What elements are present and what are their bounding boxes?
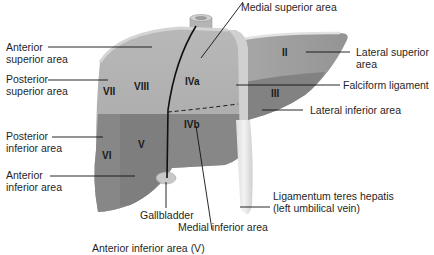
segment-ivb-label: IVb [184, 119, 200, 130]
ligamentum-teres [236, 120, 253, 214]
label-lateral-inferior-area: Lateral inferior area [310, 104, 401, 117]
segment-v-label: V [138, 139, 145, 150]
label-anterior-superior-area-line2: superior area [6, 53, 68, 66]
segment-iii-label: III [271, 88, 279, 99]
segment-vi-label: VI [102, 150, 111, 161]
label-medial-inferior-area: Medial inferior area [178, 221, 268, 234]
right-lobe [94, 28, 244, 212]
label-ligamentum-teres-line2: (left umbilical vein) [273, 202, 360, 215]
label-posterior-superior-area-line1: Posterior [6, 73, 48, 86]
segment-vii-label: VII [103, 86, 115, 97]
label-lateral-superior-area-line2: area [356, 58, 377, 71]
label-gallbladder: Gallbladder [140, 209, 194, 222]
segment-ii-label: II [282, 47, 288, 58]
label-posterior-superior-area-line2: superior area [6, 85, 68, 98]
label-posterior-inferior-area-line1: Posterior [6, 130, 48, 143]
segment-iva-label: IVa [185, 76, 199, 87]
label-anterior-inferior-area-line1: Anterior [6, 169, 43, 182]
label-anterior-superior-area-line1: Anterior [6, 41, 43, 54]
segment-viii-label: VIII [134, 81, 149, 92]
label-anterior-inferior-area-line2: inferior area [6, 181, 62, 194]
label-falciform-ligament: Falciform ligament [343, 79, 429, 92]
caption-anterior-inferior-area: Anterior inferior area (V) [92, 242, 205, 255]
label-medial-superior-area: Medial superior area [241, 1, 337, 14]
label-posterior-inferior-area-line2: inferior area [6, 142, 62, 155]
label-ligamentum-teres-line1: Ligamentum teres hepatis [273, 190, 394, 203]
label-lateral-superior-area-line1: Lateral superior [356, 46, 429, 59]
